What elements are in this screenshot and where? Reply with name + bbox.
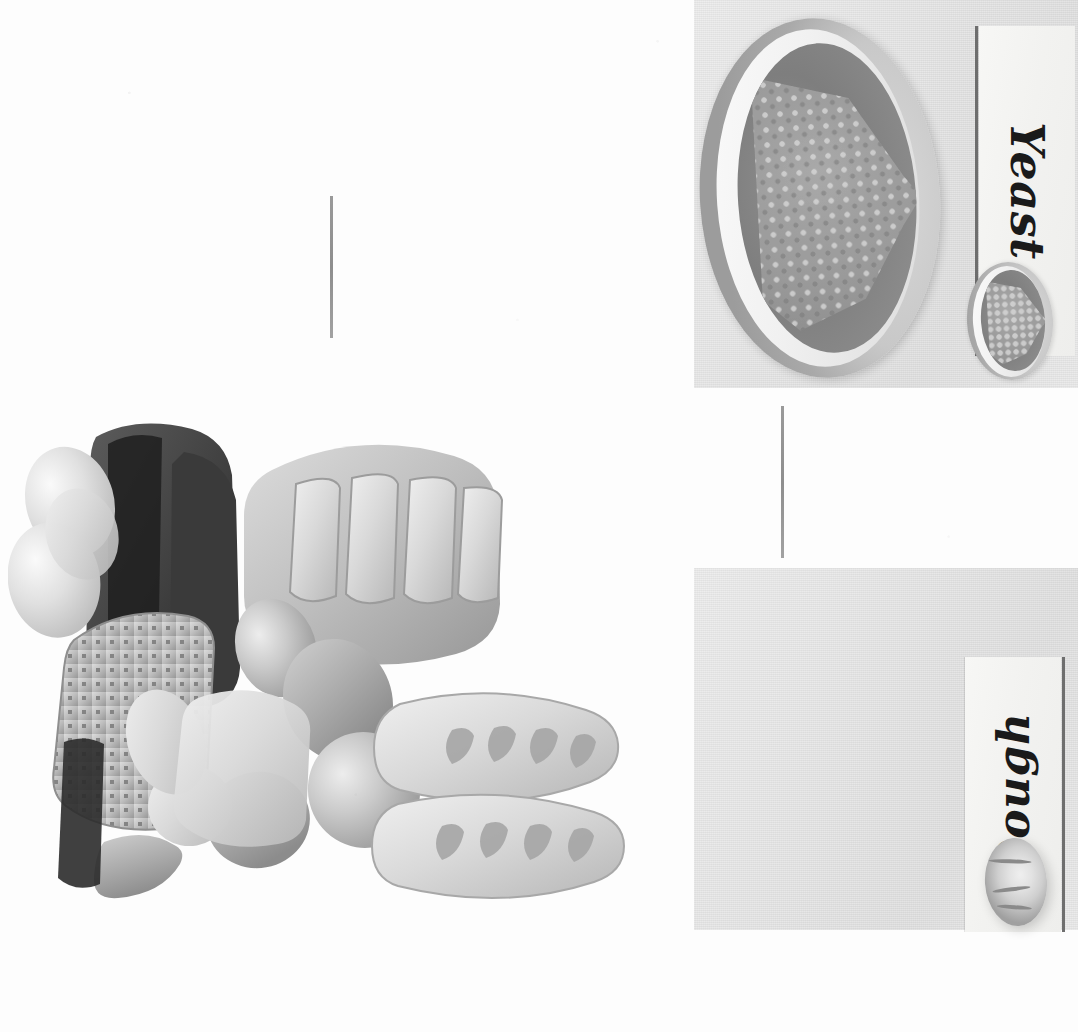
connector-rule-between-panels: [781, 406, 784, 558]
caption-label-yeast: Yeast: [1000, 122, 1054, 260]
caption-strip-edge: [1062, 657, 1065, 932]
bowl-of-yeast-small: [967, 262, 1053, 380]
bowl-of-yeast-large: [700, 18, 940, 378]
bread-baguette: [374, 693, 618, 801]
dough-score-mark: [997, 904, 1032, 910]
bread-baguette: [372, 795, 624, 898]
bread-crescent-roll: [94, 835, 182, 898]
bread-batard: [174, 690, 310, 846]
dough-score-mark: [993, 885, 1032, 894]
bread-dark-rye-loaf: [58, 738, 104, 887]
dough-score-mark: [988, 859, 1032, 865]
connector-rule-top-left: [330, 196, 333, 338]
figure-page: Yeast Dough: [0, 0, 1078, 1032]
assorted-bread-illustration: [8, 412, 658, 912]
